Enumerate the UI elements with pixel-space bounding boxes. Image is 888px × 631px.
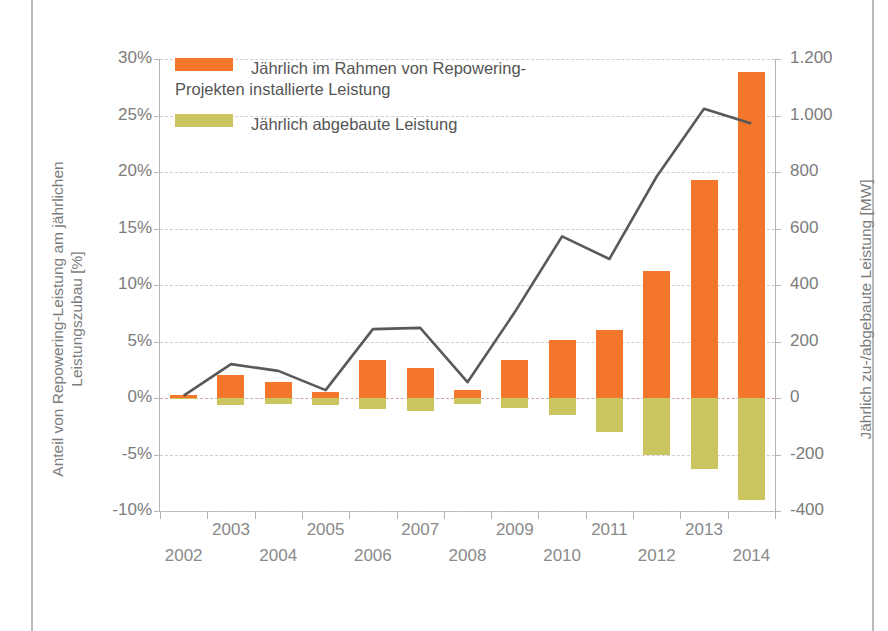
legend-item-installed: Jährlich im Rahmen von Repowering-Projek… xyxy=(175,58,605,100)
y-axis-left-title: Anteil von Repowering-Leistung am jährli… xyxy=(48,144,86,494)
y-axis-left-tick-label: 5% xyxy=(100,331,152,351)
y-axis-left-tick xyxy=(154,342,159,343)
y-axis-right-title: Jährlich zu-/abgebaute Leistung [MW] xyxy=(856,130,875,490)
x-axis-label: 2002 xyxy=(154,546,214,566)
x-axis-label: 2008 xyxy=(438,546,498,566)
y-axis-left-tick xyxy=(154,285,159,286)
y-axis-right-tick xyxy=(776,172,781,173)
x-axis-tick xyxy=(586,512,587,519)
x-axis-label: 2013 xyxy=(674,520,734,540)
y-axis-right-tick-label: 400 xyxy=(790,274,860,294)
x-axis-tick xyxy=(397,512,398,519)
x-axis-tick xyxy=(255,512,256,519)
y-axis-left-tick-label: 25% xyxy=(100,105,152,125)
legend-swatch-dismantled xyxy=(175,114,233,127)
y-axis-right-tick-label: 1.000 xyxy=(790,105,860,125)
repowering-chart: Anteil von Repowering-Leistung am jährli… xyxy=(0,0,888,631)
y-axis-right-tick xyxy=(776,229,781,230)
share-line-path xyxy=(184,109,752,396)
y-axis-right-tick-label: -400 xyxy=(790,500,860,520)
y-axis-left-tick xyxy=(154,59,159,60)
y-axis-left-tick xyxy=(154,398,159,399)
y-axis-left-tick xyxy=(154,172,159,173)
x-axis-tick xyxy=(775,512,776,519)
y-axis-left-tick-label: -5% xyxy=(100,444,152,464)
x-axis-label: 2014 xyxy=(721,546,781,566)
y-axis-right-tick xyxy=(776,342,781,343)
y-axis-right-tick xyxy=(776,59,781,60)
x-axis-tick xyxy=(538,512,539,519)
x-axis-tick xyxy=(302,512,303,519)
y-axis-right-tick-label: 1.200 xyxy=(790,48,860,68)
y-axis-left-tick-label: -10% xyxy=(100,500,152,520)
gridline xyxy=(160,511,775,512)
legend-swatch-installed xyxy=(175,58,233,71)
x-axis-tick xyxy=(207,512,208,519)
x-axis-label: 2003 xyxy=(201,520,261,540)
y-axis-left-tick xyxy=(154,455,159,456)
y-axis-right-tick-label: 800 xyxy=(790,161,860,181)
y-axis-right-tick xyxy=(776,116,781,117)
y-axis-right-tick-label: -200 xyxy=(790,444,860,464)
x-axis-tick xyxy=(680,512,681,519)
legend-label-dismantled: Jährlich abgebaute Leistung xyxy=(251,115,457,133)
x-axis-tick xyxy=(491,512,492,519)
y-axis-right-tick xyxy=(776,285,781,286)
y-axis-right-tick xyxy=(776,455,781,456)
y-axis-left-tick xyxy=(154,511,159,512)
y-axis-left-tick xyxy=(154,116,159,117)
y-axis-right-tick-label: 0 xyxy=(790,387,860,407)
y-axis-left-tick-label: 20% xyxy=(100,161,152,181)
x-axis-tick xyxy=(728,512,729,519)
x-axis-label: 2007 xyxy=(390,520,450,540)
y-axis-left-tick-label: 0% xyxy=(100,387,152,407)
y-axis-right-tick xyxy=(776,511,781,512)
x-axis-label: 2006 xyxy=(343,546,403,566)
legend-item-dismantled: Jährlich abgebaute Leistung xyxy=(175,114,605,135)
x-axis-tick xyxy=(160,512,161,519)
y-axis-right-tick xyxy=(776,398,781,399)
y-axis-right-tick-label: 600 xyxy=(790,218,860,238)
x-axis-tick xyxy=(633,512,634,519)
x-axis-tick xyxy=(444,512,445,519)
x-axis-label: 2011 xyxy=(579,520,639,540)
x-axis-label: 2004 xyxy=(248,546,308,566)
y-axis-left-tick xyxy=(154,229,159,230)
chart-legend: Jährlich im Rahmen von Repowering-Projek… xyxy=(175,58,605,149)
y-axis-left-tick-label: 10% xyxy=(100,274,152,294)
x-axis-label: 2012 xyxy=(627,546,687,566)
y-axis-right-tick-label: 200 xyxy=(790,331,860,351)
x-axis-tick xyxy=(349,512,350,519)
x-axis-label: 2005 xyxy=(296,520,356,540)
x-axis-label: 2009 xyxy=(485,520,545,540)
x-axis-label: 2010 xyxy=(532,546,592,566)
y-axis-left-tick-label: 30% xyxy=(100,48,152,68)
y-axis-left-tick-label: 15% xyxy=(100,218,152,238)
